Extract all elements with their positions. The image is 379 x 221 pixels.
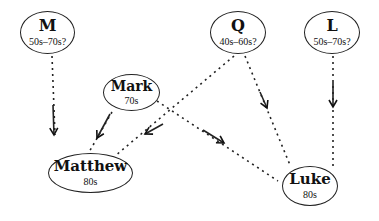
node-matthew-name: Matthew xyxy=(54,159,128,174)
node-m: M 50s–70s? xyxy=(20,11,75,54)
node-matthew: Matthew 80s xyxy=(48,153,133,193)
edge-mark-to-luke xyxy=(157,101,278,181)
node-mark: Mark 70s xyxy=(103,74,160,111)
node-q-name: Q xyxy=(231,18,245,34)
node-m-name: M xyxy=(39,18,57,34)
node-l: L 50s–70s? xyxy=(304,11,360,54)
node-luke: Luke 80s xyxy=(282,166,338,206)
node-l-name: L xyxy=(326,18,337,34)
node-mark-name: Mark xyxy=(111,79,153,93)
edge-m-to-matthew xyxy=(52,56,55,135)
node-mark-date: 70s xyxy=(125,95,139,106)
node-q: Q 40s–60s? xyxy=(210,11,266,54)
edge-mark-to-matthew xyxy=(88,112,112,154)
node-luke-name: Luke xyxy=(289,172,330,187)
node-luke-date: 80s xyxy=(303,189,317,200)
edge-q-to-luke xyxy=(245,56,290,165)
node-q-date: 40s–60s? xyxy=(219,36,256,47)
node-matthew-date: 80s xyxy=(84,176,98,187)
node-m-date: 50s–70s? xyxy=(29,36,66,47)
node-l-date: 50s–70s? xyxy=(313,36,350,47)
